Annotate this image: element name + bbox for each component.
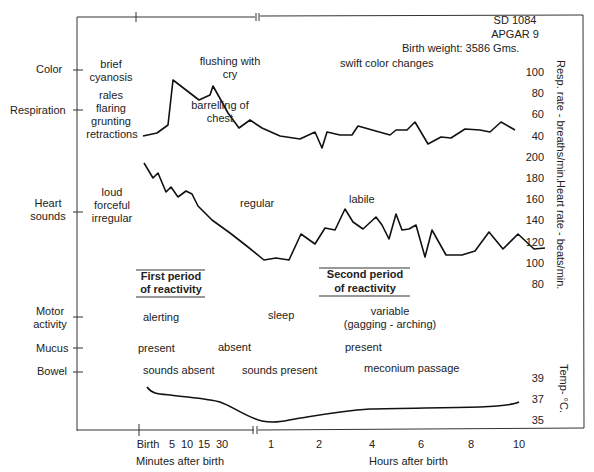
x-tick-4h: 4 bbox=[369, 438, 375, 450]
x-tick-2h: 2 bbox=[316, 438, 322, 450]
first-period-label-2: of reactivity bbox=[135, 283, 207, 296]
annotation-regular: regular bbox=[240, 197, 274, 210]
row-label-motor: Motor bbox=[30, 305, 70, 318]
annotation-brief: brief bbox=[85, 58, 137, 71]
annotation-rales: rales bbox=[85, 89, 137, 102]
temp-tick: 35 bbox=[514, 414, 544, 426]
second-period-label-2: of reactivity bbox=[318, 282, 412, 295]
annotation-flaring: flaring bbox=[85, 102, 137, 115]
annotation-cry: cry bbox=[190, 68, 270, 81]
temperature-line bbox=[147, 387, 519, 422]
heart-tick: 160 bbox=[514, 193, 544, 205]
resp-tick: 100 bbox=[514, 66, 544, 78]
x-tick-10: 10 bbox=[181, 438, 193, 450]
bottom-axis-right bbox=[258, 428, 584, 430]
x-tick-30: 30 bbox=[216, 438, 228, 450]
first-period-label-1: First period bbox=[135, 270, 207, 283]
annotation-grunting: grunting bbox=[82, 115, 140, 128]
x-tick-5: 5 bbox=[169, 438, 175, 450]
x-tick-birth: Birth bbox=[137, 438, 160, 450]
heart-tick: 80 bbox=[514, 278, 544, 290]
heart-tick: 180 bbox=[514, 172, 544, 184]
x-axis-label-hours: Hours after birth bbox=[369, 455, 448, 468]
row-label-heart: Heart bbox=[28, 197, 68, 210]
right-border bbox=[583, 15, 584, 428]
apgar-score: APGAR 9 bbox=[450, 28, 580, 41]
x-tick-8h: 8 bbox=[468, 438, 474, 450]
annotation-sounds-absent: sounds absent bbox=[143, 364, 215, 377]
annotation-cyanosis: cyanosis bbox=[85, 71, 137, 84]
x-axis-label-minutes: Minutes after birth bbox=[136, 455, 224, 468]
annotation-forceful: forceful bbox=[85, 199, 139, 212]
annotation-variable: variable bbox=[330, 305, 450, 318]
annotation-loud: loud bbox=[90, 186, 134, 199]
x-tick-1h: 1 bbox=[268, 438, 274, 450]
annotation-retractions: retractions bbox=[80, 128, 144, 141]
annotation-mucus-present-2: present bbox=[345, 341, 382, 354]
annotation-barrelling: barrelling of bbox=[180, 99, 260, 112]
row-label-activity: activity bbox=[30, 318, 70, 331]
row-label-bowel: Bowel bbox=[37, 365, 67, 378]
row-label-sounds: sounds bbox=[28, 210, 68, 223]
annotation-sounds-present: sounds present bbox=[242, 364, 317, 377]
x-tick-6h: 6 bbox=[418, 438, 424, 450]
annotation-mucus-present: present bbox=[138, 342, 175, 355]
x-tick-15: 15 bbox=[198, 438, 210, 450]
annotation-swift-color: swift color changes bbox=[340, 57, 434, 70]
annotation-irregular: irregular bbox=[85, 212, 139, 225]
birth-weight: Birth weight: 3586 Gms. bbox=[402, 42, 519, 55]
annotation-labile: labile bbox=[349, 193, 375, 206]
row-label-color: Color bbox=[36, 63, 62, 76]
x-tick-10h: 10 bbox=[513, 438, 525, 450]
heart-tick: 200 bbox=[514, 151, 544, 163]
heart-axis-label: Heart rate - beats/min. bbox=[555, 180, 567, 289]
resp-tick: 80 bbox=[514, 87, 544, 99]
annotation-chest: chest bbox=[180, 112, 260, 125]
resp-tick: 40 bbox=[514, 130, 544, 142]
annotation-flushing: flushing with bbox=[190, 55, 270, 68]
heart-tick: 140 bbox=[514, 214, 544, 226]
second-period-label-1: Second period bbox=[318, 268, 412, 281]
heart-rate-line bbox=[144, 163, 545, 260]
annotation-gagging-arching: (gagging - arching) bbox=[330, 318, 450, 331]
chart-id: SD 1084 bbox=[450, 14, 580, 27]
annotation-meconium: meconium passage bbox=[364, 362, 459, 375]
annotation-alerting: alerting bbox=[143, 311, 179, 324]
temp-tick: 39 bbox=[514, 372, 544, 384]
annotation-mucus-absent: absent bbox=[218, 341, 251, 354]
resp-tick: 60 bbox=[514, 108, 544, 120]
heart-tick: 100 bbox=[514, 257, 544, 269]
row-label-respiration: Respiration bbox=[10, 104, 66, 117]
row-label-mucus: Mucus bbox=[36, 342, 68, 355]
temp-tick: 37 bbox=[514, 393, 544, 405]
temp-axis-label: Temp- °C. bbox=[558, 364, 570, 413]
annotation-sleep: sleep bbox=[268, 309, 294, 322]
heart-tick: 120 bbox=[514, 236, 544, 248]
resp-axis-label: Resp. rate - breaths/min. bbox=[555, 60, 567, 181]
